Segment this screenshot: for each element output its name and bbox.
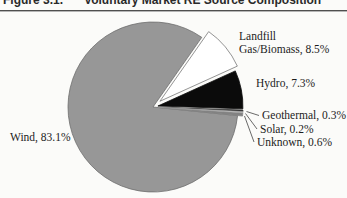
leader-line-unknown [245,116,255,142]
label-solar: Solar, 0.2% [260,123,314,136]
label-geothermal: Geothermal, 0.3% [262,109,346,122]
label-landfill-line1: Landfill [239,30,329,43]
label-landfill: Landfill Gas/Biomass, 8.5% [239,30,329,56]
figure-panel: Figure 3.1.Voluntary Market RE Source Co… [0,0,347,198]
label-landfill-line2: Gas/Biomass, 8.5% [239,43,329,56]
label-hydro: Hydro, 7.3% [256,77,315,90]
leader-line-geothermal [247,112,260,116]
label-unknown: Unknown, 0.6% [257,136,332,149]
label-wind: Wind, 83.1% [10,131,71,144]
leader-line-solar [246,114,258,130]
